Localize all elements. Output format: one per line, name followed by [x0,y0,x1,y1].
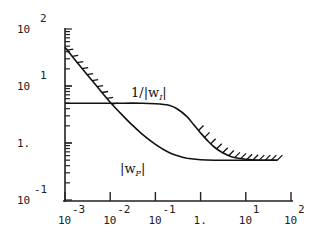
hatch [259,155,264,160]
hatch [87,74,93,75]
hatch [241,153,246,158]
hatch [77,62,83,63]
hatch-marks [67,49,282,160]
hatch [102,92,108,93]
x-tick-label: 1. [194,214,207,227]
label-inv-wi: 1/|wI| [131,85,167,102]
x-tick-label: 10 [58,214,71,227]
hatch [92,80,98,81]
x-tick-label: 10 [284,214,297,227]
y-tick-label: 10 [17,80,30,93]
hatch [223,148,228,153]
x-tick-label: 10 [239,214,252,227]
hatch [199,126,204,131]
curves [65,47,277,160]
x-tick-label: 10 [103,214,116,227]
x-tick-exponent: -3 [72,203,85,216]
y-tick-label: 10 [17,23,30,36]
y-tick-exponent: 2 [40,12,47,25]
hatch [229,150,234,155]
hatch [107,97,113,98]
x-tick-exponent: -2 [117,203,130,216]
hatch [235,152,240,157]
tick-labels: 10-310-210-11.1011021021011.10-1 [17,12,305,227]
y-tick-exponent: 1 [40,69,47,82]
hatch [205,132,210,137]
hatch [253,155,258,160]
hatch [97,86,103,87]
chart: 10-310-210-11.1011021021011.10-1 1/|wI| … [0,0,325,237]
x-tick-label: 10 [148,214,161,227]
x-major-ticks [65,192,291,201]
hatch [82,68,88,69]
axes [63,28,293,202]
hatch [67,49,73,50]
curve-inv-wi [65,103,277,160]
hatch [72,55,78,56]
label-wp: |wP| [120,161,145,178]
y-tick-exponent: -1 [34,183,47,196]
y-tick-label: 1. [17,137,30,150]
x-tick-exponent: 2 [298,203,305,216]
y-tick-label: 10 [17,194,30,207]
x-tick-exponent: -1 [162,203,175,216]
hatch [247,154,252,159]
hatch [211,139,216,144]
x-tick-exponent: 1 [253,203,260,216]
hatch [217,144,222,149]
hatch [277,155,282,160]
